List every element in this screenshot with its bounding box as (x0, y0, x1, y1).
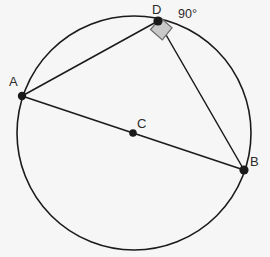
point-a (18, 92, 26, 100)
segment-db (158, 21, 244, 170)
label-angle-90: 90° (178, 8, 197, 21)
label-point-d: D (152, 3, 161, 16)
label-point-a: A (9, 75, 18, 88)
circle-diagram-svg (0, 0, 270, 257)
label-point-c: C (137, 117, 146, 130)
segment-ad (22, 21, 158, 96)
geometry-diagram-canvas: A B C D 90° (0, 0, 270, 257)
point-b (239, 165, 248, 174)
label-point-b: B (250, 155, 259, 168)
point-d (153, 16, 162, 25)
point-c-center (129, 129, 137, 137)
